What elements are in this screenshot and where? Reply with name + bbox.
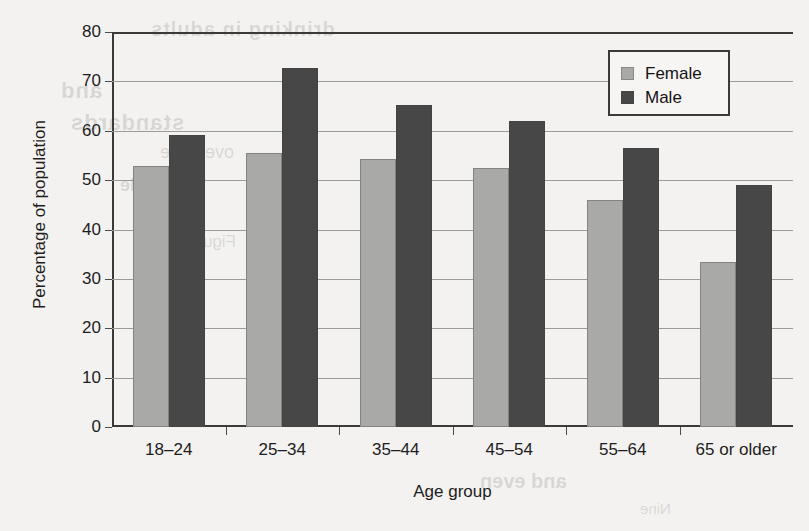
- y-tick-mark: [105, 81, 112, 82]
- y-tick-mark: [105, 131, 112, 132]
- bar-chart: Percentage of population 010203040506070…: [0, 0, 809, 531]
- x-tick-label: 25–34: [259, 440, 306, 460]
- x-tick-mark: [339, 427, 340, 435]
- y-tick-label: 10: [82, 368, 101, 388]
- bar-male: [623, 148, 659, 427]
- y-tick-label: 70: [82, 71, 101, 91]
- y-tick-mark: [105, 279, 112, 280]
- bar-male: [736, 185, 772, 427]
- legend: Female Male: [608, 50, 730, 116]
- y-tick-label: 0: [92, 417, 101, 437]
- legend-swatch-male-icon: [621, 91, 634, 104]
- x-tick-label: 45–54: [486, 440, 533, 460]
- x-tick-label: 18–24: [145, 440, 192, 460]
- y-tick-mark: [105, 180, 112, 181]
- x-axis-labels: 18–2425–3435–4445–5455–6465 or older: [112, 440, 793, 464]
- y-tick-label: 20: [82, 318, 101, 338]
- x-tick-mark: [680, 427, 681, 435]
- legend-item-male: Male: [621, 85, 728, 109]
- bar-female: [473, 168, 509, 427]
- bar-female: [587, 200, 623, 427]
- bar-female: [700, 262, 736, 427]
- y-tick-mark: [105, 328, 112, 329]
- bar-female: [246, 153, 282, 427]
- bar-female: [133, 166, 169, 427]
- x-tick-label: 65 or older: [696, 440, 777, 460]
- y-tick-label: 40: [82, 220, 101, 240]
- x-tick-label: 35–44: [372, 440, 419, 460]
- y-tick-mark: [105, 32, 112, 33]
- x-tick-mark: [566, 427, 567, 435]
- x-tick-label: 55–64: [599, 440, 646, 460]
- y-tick-mark: [105, 378, 112, 379]
- bar-male: [169, 135, 205, 427]
- bar-male: [396, 105, 432, 427]
- bar-female: [360, 159, 396, 427]
- y-tick-label: 50: [82, 170, 101, 190]
- y-axis-title: Percentage of population: [30, 120, 52, 380]
- legend-label-female: Female: [645, 65, 702, 82]
- legend-label-male: Male: [645, 89, 682, 106]
- y-tick-label: 30: [82, 269, 101, 289]
- y-tick-label: 60: [82, 121, 101, 141]
- y-tick-label: 80: [82, 22, 101, 42]
- bar-male: [509, 121, 545, 427]
- x-axis-title: Age group: [112, 482, 793, 502]
- legend-swatch-female-icon: [621, 67, 634, 80]
- y-tick-mark: [105, 230, 112, 231]
- x-tick-mark: [226, 427, 227, 435]
- y-axis-title-text: Percentage of population: [30, 120, 50, 309]
- legend-item-female: Female: [621, 61, 728, 85]
- bar-male: [282, 68, 318, 427]
- y-tick-mark: [105, 427, 112, 428]
- x-tick-mark: [453, 427, 454, 435]
